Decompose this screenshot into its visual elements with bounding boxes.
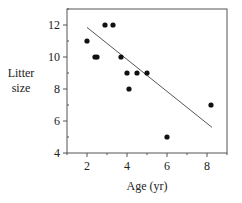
y-axis-label: Litter size: [8, 66, 35, 95]
x-tick-label: 4: [124, 159, 130, 173]
y-tick-label: 6: [54, 114, 60, 128]
data-point: [118, 54, 123, 59]
y-tick-label: 4: [54, 146, 60, 160]
regression-line: [87, 27, 212, 127]
y-tick-label: 8: [54, 82, 60, 96]
x-axis: 2468: [67, 153, 227, 173]
y-axis: 4681012: [48, 9, 69, 160]
x-tick-label: 6: [164, 159, 170, 173]
data-point: [124, 70, 129, 75]
data-point: [94, 54, 99, 59]
data-point: [144, 70, 149, 75]
data-point: [134, 70, 139, 75]
data-points: [84, 22, 213, 139]
data-point: [208, 102, 213, 107]
data-point: [102, 22, 107, 27]
data-point: [84, 38, 89, 43]
y-tick-label: 12: [48, 18, 60, 32]
y-axis-label-line-1: Litter: [8, 66, 35, 80]
data-point: [164, 134, 169, 139]
x-tick-label: 2: [84, 159, 90, 173]
x-tick-label: 8: [204, 159, 210, 173]
y-axis-label-line-2: size: [12, 81, 31, 95]
data-point: [110, 22, 115, 27]
x-axis-label: Age (yr): [127, 179, 168, 193]
y-tick-label: 10: [48, 50, 60, 64]
scatter-chart: 4681012 2468 Litter size Age (yr): [0, 0, 242, 203]
data-point: [126, 86, 131, 91]
regression-line-path: [87, 27, 212, 127]
